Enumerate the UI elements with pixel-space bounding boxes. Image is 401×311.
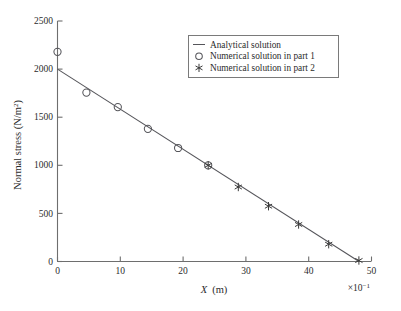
y-ticklabel-500: 500 [39,209,54,219]
y-ticklabel-2000: 2000 [34,64,53,74]
y-axis-label: Normal stress (N/m2) [12,100,24,190]
legend-label-part-2: Numerical solution in part 2 [210,63,315,73]
legend-entry-part-2[interactable]: Numerical solution in part 2 [196,63,316,73]
y-ticklabel-1500: 1500 [34,112,53,122]
y-ticklabel-0: 0 [48,257,53,267]
y-ticklabel-1000: 1000 [34,160,53,170]
x-axis-label: X (m) [200,284,228,296]
x-ticklabel-20: 20 [178,266,188,276]
legend-label-analytical: Analytical solution [210,40,281,50]
legend-label-part-1: Numerical solution in part 1 [210,51,315,61]
chart-legend[interactable]: Analytical solution Numerical solution i… [189,36,339,78]
x-ticklabel-10: 10 [116,266,126,276]
x-ticklabel-0: 0 [55,266,60,276]
chart-svg: 0 500 1000 1500 2000 2500 0 10 20 30 40 … [0,0,401,311]
legend-entry-part-1[interactable]: Numerical solution in part 1 [196,51,315,61]
x-ticklabel-30: 30 [241,266,251,276]
x-ticklabel-50: 50 [367,266,377,276]
x-ticklabel-40: 40 [304,266,314,276]
chart-figure: 0 500 1000 1500 2000 2500 0 10 20 30 40 … [0,0,401,311]
y-ticklabel-2500: 2500 [34,16,53,26]
